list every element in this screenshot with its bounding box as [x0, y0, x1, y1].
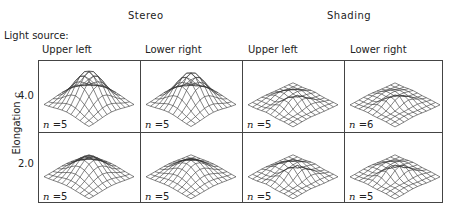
- column-header-shading-upper-left: Upper left: [248, 44, 298, 55]
- n-label: n =5: [145, 119, 169, 130]
- surface-plot-r0c0: n =5: [39, 61, 140, 132]
- column-header-stereo-upper-left: Upper left: [42, 44, 92, 55]
- group-title-shading: Shading: [327, 10, 371, 21]
- surface-plot-r1c2: n =5: [243, 133, 344, 204]
- surface-plot-r1c3: n =5: [345, 133, 446, 204]
- n-label: n =5: [349, 191, 373, 202]
- surface-plot-r0c1: n =5: [141, 61, 242, 132]
- n-label: n =5: [43, 191, 67, 202]
- n-label: n =5: [43, 119, 67, 130]
- surface-plot-r1c0: n =5: [39, 133, 140, 204]
- n-label: n =5: [247, 119, 271, 130]
- n-label: n =6: [349, 119, 373, 130]
- figure-grid: n =5 n =5 n =5 n =6 n =5 n =5 n =5 n =5: [38, 60, 443, 203]
- surface-plot-r0c3: n =6: [345, 61, 446, 132]
- row-label-2: 2.0: [18, 158, 34, 169]
- column-header-shading-lower-right: Lower right: [350, 44, 407, 55]
- y-axis-label: Elongation c: [11, 93, 22, 155]
- n-label: n =5: [247, 191, 271, 202]
- surface-plot-r0c2: n =5: [243, 61, 344, 132]
- column-header-stereo-lower-right: Lower right: [145, 44, 202, 55]
- n-label: n =5: [145, 191, 169, 202]
- surface-plot-r1c1: n =5: [141, 133, 242, 204]
- group-title-stereo: Stereo: [128, 10, 164, 21]
- light-source-label: Light source:: [4, 30, 69, 41]
